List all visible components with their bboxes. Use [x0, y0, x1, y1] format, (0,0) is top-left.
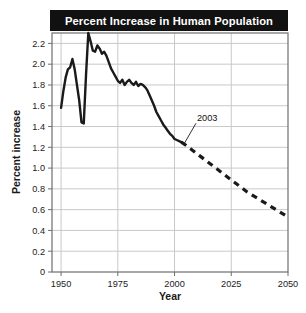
y-tick-label: 0.4	[32, 226, 45, 236]
x-tick-label: 2025	[221, 279, 241, 289]
chart-title-bar: Percent Increase in Human Population	[50, 10, 288, 31]
y-tick-label: 1.4	[32, 122, 45, 132]
y-tick-label: 2.0	[32, 59, 45, 69]
population-increase-line-chart: Percent Increase in Human Population 00.…	[0, 0, 306, 313]
y-tick-label: 1.8	[32, 80, 45, 90]
chart-title: Percent Increase in Human Population	[65, 15, 273, 27]
y-tick-label: 0.2	[32, 247, 45, 257]
y-tick-label: 1.6	[32, 101, 45, 111]
x-tick-label: 2000	[164, 279, 184, 289]
y-tick-label: 1.2	[32, 143, 45, 153]
x-axis-title: Year	[159, 290, 181, 302]
y-tick-label: 0	[40, 267, 45, 277]
y-tick-label: 2.2	[32, 39, 45, 49]
y-tick-label: 1.0	[32, 163, 45, 173]
y-tick-label: 0.6	[32, 205, 45, 215]
chart-figure: Percent Increase in Human Population 00.…	[0, 0, 306, 313]
chart-background	[0, 0, 306, 313]
x-tick-label: 1975	[108, 279, 128, 289]
annotation-label-2003: 2003	[197, 113, 217, 123]
y-tick-label: 0.8	[32, 184, 45, 194]
y-axis-title: Percent increase	[10, 110, 22, 194]
x-tick-label: 2050	[278, 279, 298, 289]
x-tick-label: 1950	[51, 279, 71, 289]
